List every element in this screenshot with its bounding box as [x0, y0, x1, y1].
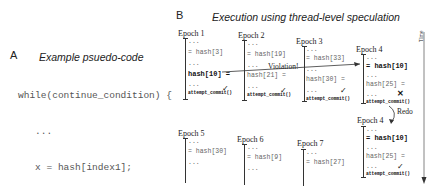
- epoch-line: ...: [247, 144, 282, 152]
- attempt-commit: attempt_commit(): [366, 171, 410, 176]
- epoch-line: ...: [188, 159, 227, 167]
- epoch-line: ...: [366, 144, 410, 152]
- epoch-line: = hash[30]: [188, 148, 227, 156]
- epoch-7-title: Epoch 7: [297, 139, 323, 148]
- epoch-7-timeline: [303, 149, 304, 186]
- epoch-4-redo-title: Epoch 4: [357, 116, 383, 125]
- epoch-6-body: ... = hash[9] ...: [247, 144, 282, 173]
- epoch-6-timeline: [244, 144, 245, 185]
- time-axis-label: Time: [418, 31, 424, 42]
- epoch-line: ...: [188, 138, 227, 146]
- epoch-line: hash[25] =: [366, 153, 410, 161]
- epoch-6-title: Epoch 6: [237, 135, 263, 144]
- epoch-line: ...: [306, 149, 345, 157]
- epoch-line: = hash[9]: [247, 154, 282, 162]
- epoch-4-redo-timeline: [363, 126, 364, 178]
- redo-label: Redo: [397, 107, 413, 116]
- epoch-7-body: ... = hash[27]: [306, 149, 345, 167]
- tick: [361, 177, 366, 178]
- epoch-5-timeline: [185, 138, 186, 183]
- check-icon: ✓: [397, 162, 404, 171]
- epoch-line: = hash[27]: [306, 159, 345, 167]
- epoch-5-title: Epoch 5: [178, 129, 204, 138]
- epoch-line: ...: [366, 126, 410, 134]
- epoch-line: = hash[10]: [366, 134, 410, 142]
- epoch-line: ...: [247, 165, 282, 173]
- epoch-5-body: ... = hash[30] ...: [188, 138, 227, 167]
